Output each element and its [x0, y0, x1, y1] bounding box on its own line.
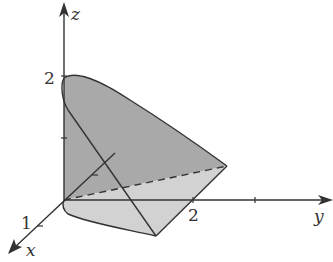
3d-region-diagram: z 2 y 2 1 x [0, 0, 333, 262]
x-axis-arrow-icon [8, 239, 22, 254]
y-axis-label: y [313, 206, 324, 226]
z-axis-label: z [70, 4, 81, 24]
x-tick-label-1: 1 [21, 213, 32, 233]
x-axis-label: x [26, 240, 36, 260]
y-tick-label-2: 2 [188, 205, 199, 225]
z-tick-label-2: 2 [44, 68, 55, 88]
